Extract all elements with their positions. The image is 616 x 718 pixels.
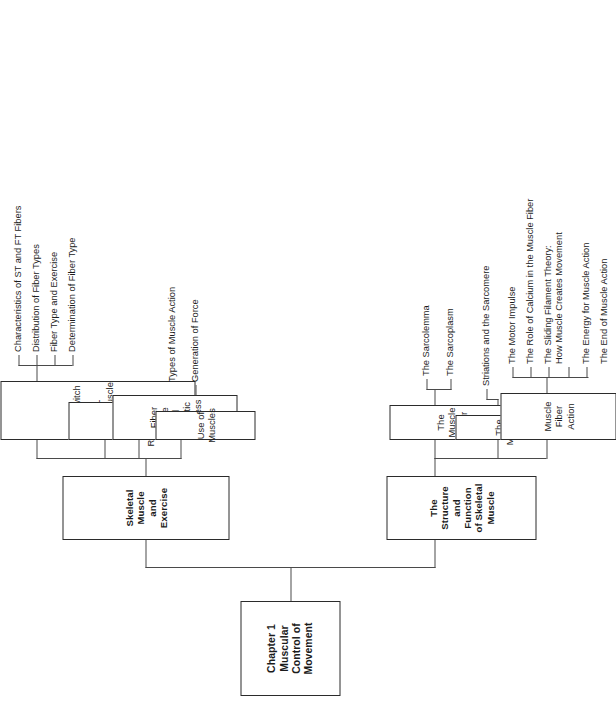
connector-branch-a-stub [145, 458, 146, 476]
connector-b2-leaf-1 [486, 389, 487, 400]
leaf-the-sliding-filament-theory[interactable]: The Sliding Filament Theory: How Muscle … [542, 232, 564, 364]
connector-a1-bus [18, 365, 72, 366]
connector-branch-a-bus [36, 458, 146, 459]
connector-root-stub [290, 568, 291, 601]
leaf-distribution-of-fiber-types[interactable]: Distribution of Fiber Types [30, 244, 41, 352]
leaf-types-of-muscle-action[interactable]: Types of Muscle Action [166, 287, 177, 382]
b3-title: Muscle Fiber Action [541, 397, 574, 436]
leaf-the-motor-impulse[interactable]: The Motor Impulse [506, 286, 517, 364]
connector-a-child-4 [180, 440, 181, 459]
root-line-1: Chapter 1 [265, 624, 277, 673]
connector-a1-leaf-4 [72, 355, 73, 366]
connector-a1-leaf-3 [54, 355, 55, 366]
connector-branch-a-bus-lower [145, 458, 181, 459]
connector-a1-leaf-2 [36, 355, 37, 366]
connector-branch-b-bus [434, 458, 546, 459]
node-structure-and-function-of-skeletal-muscle[interactable]: The Structure and Function of Skeletal M… [386, 476, 536, 540]
connector-b1-bus [426, 389, 451, 390]
leaf-the-end-of-muscle-action[interactable]: The End of Muscle Action [598, 259, 609, 364]
node-root[interactable]: Chapter 1 Muscular Control of Movement [240, 601, 340, 696]
connector-b1-leaf-1 [426, 379, 427, 390]
branch-b-title-line-2: and Function [450, 480, 473, 536]
root-line-2: Muscular Control of Movement [278, 605, 315, 692]
leaf-the-energy-for-muscle-action[interactable]: The Energy for Muscle Action [580, 243, 591, 364]
leaf-the-sarcolemma[interactable]: The Sarcolemma [420, 305, 431, 376]
connector-a-child-1 [36, 440, 37, 459]
connector-b1-stub [434, 389, 435, 405]
connector-a1-leaf-1 [18, 355, 19, 366]
branch-a-title-line-2: and Exercise [146, 480, 169, 536]
leaf-striations-and-the-sarcomere[interactable]: Striations and the Sarcomere [480, 266, 491, 386]
leaf-fiber-type-and-exercise[interactable]: Fiber Type and Exercise [48, 252, 59, 352]
leaf-generation-of-force[interactable]: Generation of Force [189, 299, 200, 382]
node-muscle-fiber-action[interactable]: Muscle Fiber Action [500, 393, 616, 440]
connector-b3-bus [512, 377, 568, 378]
a4-title: Use of Muscles [194, 408, 216, 443]
connector-trunk-branch-a [145, 540, 146, 568]
branch-a-title-line-1: Skeletal Muscle [123, 480, 146, 536]
connector-b3-leaf-3 [548, 367, 549, 378]
connector-main-trunk [145, 567, 435, 568]
leaf-determination-of-fiber-type[interactable]: Determination of Fiber Type [66, 237, 77, 352]
branch-b-title-line-3: of Skeletal [472, 483, 483, 532]
leaf-characteristics-of-st-and-ft-fibers[interactable]: Characteristics of ST and FT Fibers [12, 206, 23, 352]
node-skeletal-muscle-and-exercise[interactable]: Skeletal Muscle and Exercise [62, 476, 229, 540]
connector-b3-bus-ext [566, 377, 588, 378]
connector-trunk-branch-b [434, 540, 435, 568]
node-use-of-muscles[interactable]: Use of Muscles [155, 411, 255, 440]
leaf-the-sarcoplasm[interactable]: The Sarcoplasm [444, 308, 455, 376]
connector-b-child-3 [546, 440, 547, 459]
connector-b3-leaf-2 [530, 367, 531, 378]
connector-b3-stub [546, 377, 547, 393]
branch-b-title-line-4: Muscle [484, 491, 495, 524]
leaf-the-role-of-calcium-in-the-muscle-fiber[interactable]: The Role of Calcium in the Muscle Fiber [524, 199, 535, 364]
connector-b-child-1 [434, 440, 435, 459]
connector-branch-b-stub [434, 458, 435, 476]
connector-b3-leaf-1 [512, 367, 513, 378]
connector-a1-stub [36, 365, 37, 381]
connector-a-child-2 [104, 440, 105, 459]
branch-b-title-line-1: The Structure [427, 480, 450, 536]
connector-b1-leaf-2 [450, 379, 451, 390]
